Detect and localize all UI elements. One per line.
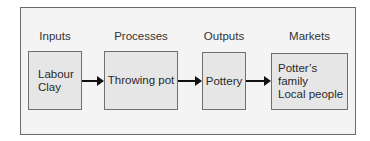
arrow-outputs-to-markets xyxy=(246,80,269,82)
input-labour: Labour xyxy=(38,68,81,81)
processes-box: Throwing pot xyxy=(104,51,178,110)
heading-markets: Markets xyxy=(271,30,348,42)
outputs-box: Pottery xyxy=(202,52,246,110)
process-throwing-pot: Throwing pot xyxy=(108,74,174,87)
market-local-people: Local people xyxy=(278,88,347,101)
heading-outputs: Outputs xyxy=(198,30,250,42)
arrow-inputs-to-processes xyxy=(82,80,102,82)
market-potters-family: Potter’s family xyxy=(278,62,347,88)
heading-inputs: Inputs xyxy=(28,30,82,42)
output-pottery: Pottery xyxy=(206,75,242,88)
markets-box: Potter’s family Local people xyxy=(271,53,348,110)
heading-processes: Processes xyxy=(104,30,178,42)
arrow-processes-to-outputs xyxy=(178,80,200,82)
inputs-box: Labour Clay xyxy=(28,51,82,110)
input-clay: Clay xyxy=(38,81,81,94)
